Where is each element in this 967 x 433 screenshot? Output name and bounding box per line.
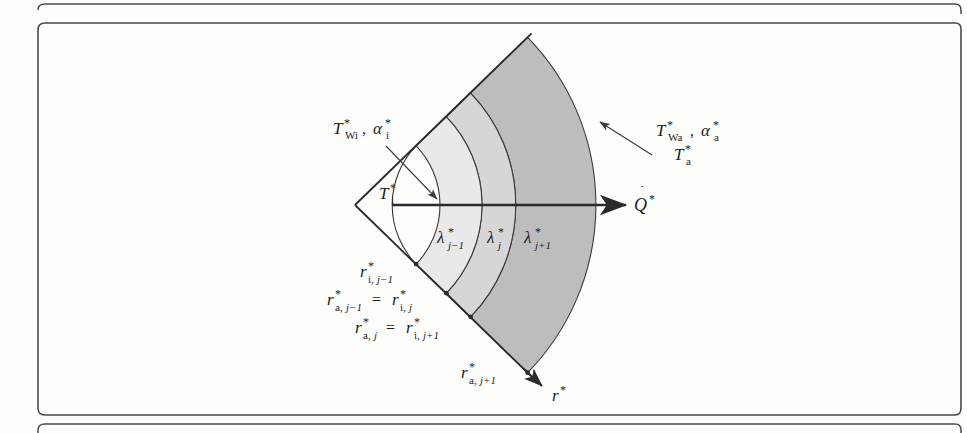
- label-inner-wall-temperature: T Wi * , α i *: [333, 116, 391, 141]
- svg-text:*: *: [685, 142, 691, 156]
- svg-text:α: α: [373, 119, 383, 138]
- svg-text:j: j: [372, 329, 377, 341]
- svg-text:,: ,: [362, 120, 366, 137]
- svg-text:T: T: [379, 184, 390, 203]
- svg-text:j+1: j+1: [478, 374, 496, 386]
- svg-text:=: =: [386, 319, 395, 336]
- svg-text:j: j: [407, 301, 412, 313]
- svg-text:*: *: [414, 315, 420, 329]
- label-radius-a-jplus1: r a, j+1 *: [461, 360, 496, 386]
- svg-text:*: *: [713, 118, 719, 132]
- label-inner-fluid-temperature: T i *: [379, 181, 396, 206]
- svg-text:T: T: [674, 145, 685, 164]
- label-radius-a-j-eq-i-jplus1: r a, j * = r i, j+1 *: [355, 315, 439, 341]
- page-frame-bottom: [38, 424, 961, 433]
- svg-text:a: a: [686, 155, 691, 167]
- svg-text:i,: i,: [400, 301, 406, 313]
- svg-text:r: r: [355, 318, 362, 337]
- svg-text:α: α: [701, 121, 711, 140]
- svg-text:Wa: Wa: [668, 131, 683, 143]
- label-radius-a-jminus1-eq-i-j: r a, j−1 * = r i, j *: [327, 287, 412, 313]
- svg-text:i,: i,: [368, 273, 374, 285]
- svg-text:λ: λ: [523, 228, 531, 247]
- svg-text:*: *: [498, 225, 504, 239]
- svg-text:*: *: [344, 116, 350, 130]
- svg-text:j−1: j−1: [446, 239, 464, 251]
- svg-text:λ: λ: [436, 228, 444, 247]
- svg-text:*: *: [469, 360, 475, 374]
- svg-text:a,: a,: [363, 329, 371, 341]
- figure-canvas: T Wi * , α i * T i * T Wa * , α a * T a …: [0, 0, 967, 433]
- svg-text:*: *: [385, 116, 391, 130]
- page-frame-top: [38, 4, 961, 14]
- svg-text:i: i: [391, 194, 394, 206]
- svg-text:a,: a,: [469, 374, 477, 386]
- svg-text:T: T: [333, 119, 344, 138]
- svg-text:j−1: j−1: [344, 301, 362, 313]
- svg-text:*: *: [390, 181, 396, 195]
- svg-text:i,: i,: [414, 329, 420, 341]
- svg-text:r: r: [552, 386, 559, 405]
- svg-text:*: *: [649, 192, 655, 206]
- svg-text:*: *: [535, 225, 541, 239]
- svg-text:Wi: Wi: [345, 129, 358, 141]
- label-radius-i-jminus1: r i, j−1 *: [360, 259, 393, 285]
- label-outer-fluid-temperature: T a *: [674, 142, 691, 167]
- svg-text:a,: a,: [335, 301, 343, 313]
- svg-text:Q: Q: [634, 195, 647, 215]
- svg-text:*: *: [560, 383, 566, 397]
- svg-text:r: r: [360, 262, 367, 281]
- svg-text:r: r: [392, 290, 399, 309]
- svg-text:*: *: [667, 118, 673, 132]
- label-heat-flow: Q ˙ *: [634, 182, 655, 215]
- svg-text:*: *: [400, 287, 406, 301]
- svg-text:r: r: [406, 318, 413, 337]
- svg-text:*: *: [363, 315, 369, 329]
- svg-text:λ: λ: [486, 228, 494, 247]
- svg-text:*: *: [335, 287, 341, 301]
- svg-text:j+1: j+1: [421, 329, 439, 341]
- svg-text:˙: ˙: [640, 182, 644, 197]
- svg-text:a: a: [714, 131, 719, 143]
- leader-outer-wall: [600, 122, 652, 155]
- label-outer-wall-temperature: T Wa * , α a *: [656, 118, 719, 143]
- label-radial-axis: r *: [552, 383, 566, 405]
- svg-text:r: r: [461, 363, 468, 382]
- svg-text:,: ,: [690, 122, 694, 139]
- svg-text:r: r: [327, 290, 334, 309]
- svg-text:*: *: [448, 225, 454, 239]
- svg-text:=: =: [372, 291, 381, 308]
- svg-text:*: *: [368, 259, 374, 273]
- radial-axis-arrow: [524, 369, 542, 386]
- svg-text:j−1: j−1: [375, 273, 393, 285]
- svg-text:T: T: [656, 121, 667, 140]
- svg-text:i: i: [386, 129, 389, 141]
- svg-text:j+1: j+1: [533, 239, 551, 251]
